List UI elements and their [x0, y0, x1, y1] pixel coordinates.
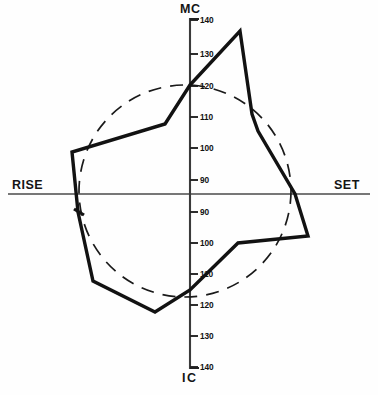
upper-tick-marks — [190, 20, 198, 180]
tick-label-upper: 120 — [200, 81, 214, 91]
reference-circle — [79, 85, 291, 297]
tick-label-lower: 100 — [200, 238, 214, 248]
tick-label-lower: 120 — [200, 300, 214, 310]
figure-canvas: MC IC RISE SET 140 130 120 110 100 90 90… — [0, 0, 378, 395]
tick-label-upper: 140 — [200, 15, 214, 25]
tick-label-upper: 100 — [200, 143, 214, 153]
tick-label-upper: 130 — [200, 49, 214, 59]
label-mc: MC — [180, 2, 200, 16]
tick-label-lower: 90 — [200, 207, 209, 217]
polar-diagram-svg — [0, 0, 378, 395]
tick-label-lower: 140 — [200, 362, 214, 372]
tick-label-upper: 110 — [200, 112, 213, 122]
tick-label-upper: 90 — [200, 175, 209, 185]
label-rise: RISE — [12, 178, 43, 192]
tick-label-lower: 110 — [200, 269, 213, 279]
tick-label-lower: 130 — [200, 331, 214, 341]
label-ic: IC — [182, 371, 198, 385]
label-set: SET — [334, 178, 360, 192]
